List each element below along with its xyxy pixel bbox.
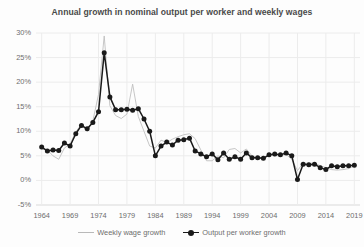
data-point-marker bbox=[51, 147, 56, 152]
legend-label-output-per-worker-growth: Output per worker growth bbox=[202, 228, 285, 237]
data-point-marker bbox=[278, 152, 283, 157]
y-axis-tick-label: 20% bbox=[5, 77, 31, 86]
data-point-marker bbox=[329, 163, 334, 168]
chart-container: Annual growth in nominal output per work… bbox=[0, 0, 364, 247]
series-line bbox=[42, 36, 355, 171]
line-swatch-gray-icon bbox=[78, 228, 94, 237]
data-point-marker bbox=[124, 107, 129, 112]
data-point-marker bbox=[250, 155, 255, 160]
data-point-marker bbox=[187, 136, 192, 141]
legend-item-weekly-wage-growth[interactable]: Weekly wage growth bbox=[78, 228, 165, 237]
data-point-marker bbox=[164, 140, 169, 145]
data-point-marker bbox=[45, 148, 50, 153]
data-point-marker bbox=[352, 163, 357, 168]
legend-label-weekly-wage-growth: Weekly wage growth bbox=[97, 228, 165, 237]
chart-plot-svg bbox=[0, 0, 364, 247]
data-point-marker bbox=[215, 157, 220, 162]
data-point-marker bbox=[210, 151, 215, 156]
data-point-marker bbox=[170, 143, 175, 148]
data-point-marker bbox=[107, 94, 112, 99]
data-point-marker bbox=[272, 151, 277, 156]
data-point-marker bbox=[198, 151, 203, 156]
data-point-marker bbox=[96, 109, 101, 114]
y-axis-tick-label: -5% bbox=[5, 200, 31, 209]
data-point-marker bbox=[295, 177, 300, 182]
data-point-marker bbox=[306, 162, 311, 167]
data-point-marker bbox=[289, 153, 294, 158]
data-point-marker bbox=[102, 50, 107, 55]
data-point-marker bbox=[193, 148, 198, 153]
data-point-marker bbox=[227, 157, 232, 162]
data-point-marker bbox=[267, 152, 272, 157]
data-point-marker bbox=[73, 131, 78, 136]
data-point-marker bbox=[153, 153, 158, 158]
data-point-marker bbox=[335, 164, 340, 169]
data-point-marker bbox=[244, 150, 249, 155]
line-marker-swatch-black-icon bbox=[183, 228, 199, 237]
data-point-marker bbox=[312, 162, 317, 167]
data-point-marker bbox=[318, 165, 323, 170]
data-point-marker bbox=[346, 163, 351, 168]
data-point-marker bbox=[232, 154, 237, 159]
y-axis-tick-label: 25% bbox=[5, 53, 31, 62]
data-point-marker bbox=[301, 162, 306, 167]
data-point-marker bbox=[159, 144, 164, 149]
data-point-marker bbox=[39, 145, 44, 150]
series-output-per-worker-growth bbox=[39, 50, 357, 182]
y-axis-tick-label: 0% bbox=[5, 175, 31, 184]
y-axis-tick-label: 15% bbox=[5, 102, 31, 111]
data-point-marker bbox=[147, 129, 152, 134]
data-point-marker bbox=[79, 123, 84, 128]
data-point-marker bbox=[90, 120, 95, 125]
chart-legend: Weekly wage growth Output per worker gro… bbox=[0, 228, 364, 237]
data-point-marker bbox=[85, 126, 90, 131]
series-line bbox=[42, 53, 355, 180]
data-point-marker bbox=[68, 144, 73, 149]
data-point-marker bbox=[181, 137, 186, 142]
data-point-marker bbox=[62, 141, 67, 146]
data-point-marker bbox=[261, 156, 266, 161]
data-point-marker bbox=[238, 157, 243, 162]
data-point-marker bbox=[221, 150, 226, 155]
data-point-marker bbox=[113, 107, 118, 112]
data-point-marker bbox=[323, 167, 328, 172]
data-point-marker bbox=[119, 107, 124, 112]
data-point-marker bbox=[130, 108, 135, 113]
y-axis-tick-label: 5% bbox=[5, 151, 31, 160]
data-point-marker bbox=[284, 150, 289, 155]
data-point-marker bbox=[136, 106, 141, 111]
y-axis-tick-label: 10% bbox=[5, 126, 31, 135]
data-point-marker bbox=[142, 117, 147, 122]
x-axis-tick-label: 2019 bbox=[337, 211, 364, 220]
plot-area: 30%25%20%15%10%5%0%-5% 19641969197419791… bbox=[0, 0, 364, 247]
gridlines bbox=[36, 33, 360, 205]
data-point-marker bbox=[340, 163, 345, 168]
y-axis-tick-label: 30% bbox=[5, 28, 31, 37]
data-point-marker bbox=[176, 138, 181, 143]
series-weekly-wage-growth bbox=[42, 36, 355, 171]
data-point-marker bbox=[255, 155, 260, 160]
legend-item-output-per-worker-growth[interactable]: Output per worker growth bbox=[183, 228, 285, 237]
data-point-marker bbox=[204, 154, 209, 159]
data-point-marker bbox=[56, 148, 61, 153]
